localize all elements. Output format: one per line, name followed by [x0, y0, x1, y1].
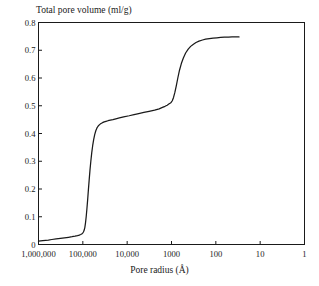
x-tick-label: 100 [209, 250, 222, 259]
y-tick-label: 0.8 [25, 18, 36, 27]
plot-canvas [0, 0, 319, 286]
y-tick-label: 0.7 [25, 46, 36, 55]
x-tick-label: 1000 [163, 250, 180, 259]
x-tick-label: 1 [302, 250, 306, 259]
y-axis-title: Total pore volume (ml/g) [36, 6, 132, 16]
y-tick-label: 0.2 [25, 185, 36, 194]
x-tick-label: 1,000,000 [21, 250, 55, 259]
chart-figure: Total pore volume (ml/g) Pore radius (Å)… [0, 0, 319, 286]
x-tick-label: 100,000 [69, 250, 97, 259]
x-tick-label: 10,000 [115, 250, 139, 259]
y-tick-label: 0 [31, 240, 35, 249]
y-tick-label: 0.3 [25, 157, 36, 166]
data-series-group [39, 37, 240, 241]
y-tick-label: 0.6 [25, 74, 36, 83]
plot-frame [39, 23, 305, 245]
x-axis-ticks [39, 241, 305, 245]
y-axis-ticks [39, 23, 43, 245]
data-line-0 [39, 37, 240, 241]
x-axis-title: Pore radius (Å) [0, 266, 319, 276]
y-tick-label: 0.5 [25, 101, 36, 110]
y-tick-label: 0.1 [25, 212, 36, 221]
x-tick-label: 10 [256, 250, 265, 259]
y-tick-label: 0.4 [25, 129, 36, 138]
